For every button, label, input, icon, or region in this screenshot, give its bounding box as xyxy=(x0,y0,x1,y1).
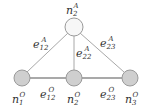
label-n1O: n1O xyxy=(12,91,26,107)
label-n3O: n3O xyxy=(125,91,139,107)
label-e22A: e22A xyxy=(76,45,92,61)
node-n3O xyxy=(122,70,138,86)
label-e23O: e23O xyxy=(100,86,116,102)
label-e23A: e23A xyxy=(100,35,116,51)
label-e12O: e12O xyxy=(40,86,56,102)
graph-diagram: n2A n1O n2O n3O e12A e22A e23A e12O e23O xyxy=(0,0,148,110)
label-e12A: e12A xyxy=(33,36,49,52)
node-n2O xyxy=(66,70,82,86)
node-n1O xyxy=(14,70,30,86)
label-n2A: n2A xyxy=(66,2,79,18)
label-n2O: n2O xyxy=(67,91,81,107)
node-n2A xyxy=(65,18,83,36)
